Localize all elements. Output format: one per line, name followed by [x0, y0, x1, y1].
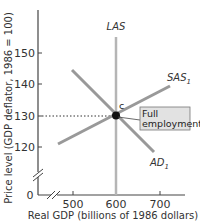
ad1-label: AD1: [149, 157, 169, 171]
origin-label: 0: [27, 189, 34, 202]
sas1-label-main: SAS: [167, 72, 187, 83]
y-tick-label: 140: [14, 78, 35, 91]
ad1-label-sub: 1: [165, 163, 169, 171]
equilibrium-point-label: c: [119, 100, 124, 111]
sas1-label: SAS1: [167, 72, 191, 86]
sas1-label-sub: 1: [187, 78, 191, 86]
chart-canvas: 150 140 130 120 0 500 600 700 Real GDP (…: [0, 0, 200, 221]
y-axis-title: Price level (GDP deflator, 1986 = 100): [3, 12, 14, 204]
annotation-line2: employment: [142, 118, 200, 129]
y-tick-label: 120: [14, 141, 35, 154]
y-tick-label: 130: [14, 110, 35, 123]
equilibrium-point-marker: [112, 112, 120, 120]
ad1-label-main: AD: [149, 157, 165, 168]
x-axis-title: Real GDP (billions of 1986 dollars): [28, 210, 199, 221]
las-label: LAS: [107, 21, 126, 32]
y-tick-label: 150: [14, 47, 35, 60]
